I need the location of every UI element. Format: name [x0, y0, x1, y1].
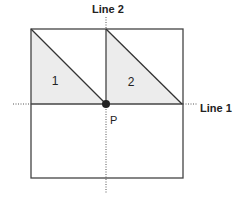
diagram-canvas: Line 2 Line 1 P 1 2	[0, 0, 243, 197]
point-label: P	[110, 114, 117, 126]
triangle-1-label: 1	[52, 74, 59, 88]
point-p	[102, 100, 110, 108]
line-1-label: Line 1	[200, 102, 232, 114]
triangle-2-label: 2	[128, 75, 135, 89]
line-2-label: Line 2	[92, 3, 124, 15]
